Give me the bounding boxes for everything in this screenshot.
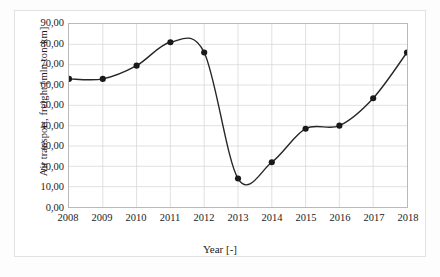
y-axis-tick-label: 40,00 [18, 121, 64, 132]
data-point-marker [100, 76, 106, 82]
data-point-marker [201, 49, 207, 55]
data-point-marker [336, 123, 342, 129]
data-point-marker [69, 76, 72, 82]
y-axis-tick-label: 70,00 [18, 59, 64, 70]
y-axis-tick-label: 80,00 [18, 39, 64, 50]
chart-figure: Air transport, freight [mln ton-km] 0,00… [0, 0, 440, 277]
data-point-marker [134, 63, 140, 69]
y-axis-tick-label: 10,00 [18, 182, 64, 193]
y-axis-tick-label: 90,00 [18, 18, 64, 29]
x-axis-title: Year [-] [0, 243, 440, 255]
y-axis-tick-label: 50,00 [18, 100, 64, 111]
data-point-marker [370, 95, 376, 101]
data-point-marker [303, 126, 309, 132]
data-point-marker [269, 159, 275, 165]
y-axis-tick-labels: 0,0010,0020,0030,0040,0050,0060,0070,008… [16, 23, 64, 208]
line-chart-svg [69, 24, 407, 207]
data-point-marker [404, 49, 407, 55]
x-axis-tick-labels: 2008200920102011201220132014201520162017… [68, 213, 408, 229]
plot-area [68, 23, 408, 208]
data-point-marker [235, 175, 241, 181]
y-axis-tick-label: 20,00 [18, 162, 64, 173]
x-axis-tick-label: 2018 [387, 213, 429, 224]
y-axis-tick-label: 60,00 [18, 80, 64, 91]
y-axis-tick-label: 30,00 [18, 141, 64, 152]
data-point-marker [167, 39, 173, 45]
